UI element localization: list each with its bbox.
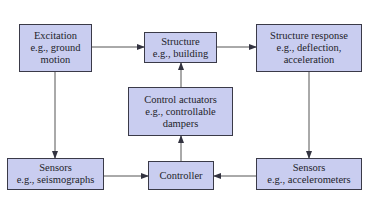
control-system-diagram: Excitation e.g., ground motion Structure… [0,0,371,201]
structure-response-box: Structure response e.g., deflection, acc… [256,24,362,72]
sensors-right-title: Sensors [293,162,326,174]
sensors-right-example-1: e.g., accelerometers [267,174,350,186]
sensors-right-box: Sensors e.g., accelerometers [256,158,362,190]
excitation-title: Excitation [34,30,77,42]
structure-response-example-1: e.g., deflection, [276,42,341,54]
structure-response-title: Structure response [270,30,348,42]
control-actuators-example-2: dampers [163,118,199,130]
structure-box: Structure e.g., building [144,32,217,63]
sensors-left-example-1: e.g., seismographs [17,174,95,186]
controller-title: Controller [159,170,202,182]
excitation-example-2: motion [41,54,71,66]
control-actuators-title: Control actuators [144,94,217,106]
structure-title: Structure [161,36,200,48]
structure-response-example-2: acceleration [284,54,335,66]
controller-box: Controller [148,161,214,190]
excitation-example-1: e.g., ground [30,42,80,54]
control-actuators-example-1: e.g., controllable [145,106,216,118]
control-actuators-box: Control actuators e.g., controllable dam… [128,87,233,136]
excitation-box: Excitation e.g., ground motion [19,24,92,72]
sensors-left-box: Sensors e.g., seismographs [7,158,104,190]
sensors-left-title: Sensors [39,162,72,174]
structure-example-1: e.g., building [153,48,208,60]
